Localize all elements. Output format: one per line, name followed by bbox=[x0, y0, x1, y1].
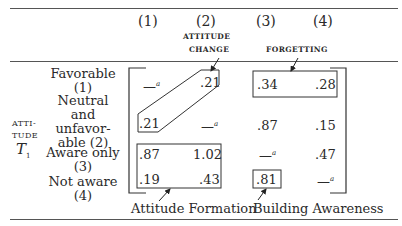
cell-r2-c4: .15 bbox=[315, 118, 336, 133]
cell-r2-c1: .21 bbox=[139, 116, 160, 131]
footnote-marker: a bbox=[330, 175, 334, 183]
cell-r4-c2: .43 bbox=[199, 172, 220, 187]
annotation-attitude-formation: Attitude Formation bbox=[131, 201, 257, 216]
cell-r1-c1-value: — bbox=[143, 79, 156, 94]
cell-r4-c1: .19 bbox=[139, 172, 160, 187]
footnote-marker: a bbox=[214, 120, 218, 128]
cell-r1-c3: .34 bbox=[257, 77, 278, 92]
cell-r4-c3: .81 bbox=[256, 172, 277, 187]
annotation-building-awareness: Building Awareness bbox=[253, 201, 384, 216]
arrow-attitude-change bbox=[211, 58, 219, 71]
cell-r3-c1: .87 bbox=[139, 147, 160, 162]
footnote-marker: a bbox=[272, 149, 276, 157]
cell-r2-c2: —a bbox=[201, 119, 218, 134]
cell-r4-c4: —a bbox=[317, 174, 334, 189]
cell-r3-c3-value: — bbox=[259, 148, 272, 163]
arrow-forgetting bbox=[291, 58, 298, 71]
cell-r2-c3: .87 bbox=[257, 118, 278, 133]
cell-r1-c2: .21 bbox=[200, 75, 221, 90]
arrow-attitude-formation bbox=[159, 189, 170, 201]
cell-r3-c4: .47 bbox=[315, 147, 336, 162]
cell-r1-c4: .28 bbox=[315, 77, 336, 92]
cell-r3-c3: —a bbox=[259, 148, 276, 163]
cell-r1-c1: —a bbox=[143, 79, 160, 94]
cell-r4-c4-value: — bbox=[317, 174, 330, 189]
cell-r3-c2: 1.02 bbox=[193, 147, 222, 162]
arrow-building-awareness bbox=[258, 189, 266, 200]
cell-r2-c2-value: — bbox=[201, 119, 214, 134]
matrix-annotations bbox=[0, 0, 402, 226]
footnote-marker: a bbox=[156, 80, 160, 88]
